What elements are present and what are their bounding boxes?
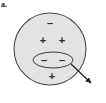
charge-negative-top: – <box>47 17 53 29</box>
charge-positive-middle-right: + <box>59 34 65 46</box>
panel-label: a. <box>1 0 7 9</box>
figure-container: – + + – – + a. <box>0 0 106 103</box>
charge-distribution-diagram: – + + – – + a. <box>0 0 106 103</box>
charge-negative-inner-left: – <box>41 54 47 66</box>
charge-positive-bottom: + <box>49 70 55 82</box>
charge-negative-inner-right: – <box>59 54 65 66</box>
charge-positive-middle-left: + <box>40 34 46 46</box>
highlighted-region <box>33 52 73 68</box>
